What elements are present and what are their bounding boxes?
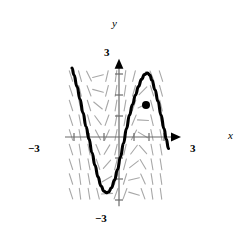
y-tick-label-pos3: 3 [104,47,110,58]
slope-field-segment [87,100,90,110]
slope-field-segment [106,85,109,96]
slope-field-segment [151,100,154,111]
slope-field-segment [69,188,72,198]
slope-field-segment [93,89,104,92]
slope-field-segment [151,130,153,141]
slope-field-segment [123,174,126,185]
slope-field-segment [151,159,153,170]
slope-field-segment [124,159,127,170]
x-axis-arrowhead [171,133,181,142]
slope-field-segment [133,71,136,82]
slope-field-segment [93,75,104,78]
slope-field-segment [79,71,82,82]
solution-curve-path [72,68,169,193]
slope-field-segment [131,145,138,154]
slope-field-segment [141,189,145,199]
slope-field-segment [88,174,90,185]
slope-field-segment [115,100,117,111]
slope-field-segment [160,85,163,96]
slope-field-segment [69,100,72,110]
slope-field-segment [79,115,81,126]
slope-field-segment [97,188,100,199]
slope-field-segment [69,130,72,140]
slope-field-segment [151,115,154,126]
slope-field-segment [123,189,127,199]
slope-field-segment [139,87,147,95]
slope-field-segment [69,115,72,125]
initial-condition-dot [142,101,150,109]
slope-field-segment [79,144,81,155]
slope-field-segment [87,86,91,96]
x-axis-label: x [228,130,233,141]
slope-field-segment [140,160,146,169]
slope-field-segment [115,71,117,82]
slope-field-segment [103,160,110,168]
slope-field-segment [151,144,153,155]
slope-field-segment [124,85,126,96]
slope-field-segment [124,71,126,82]
slope-field-segment [96,145,100,155]
slope-field-segment [130,161,139,168]
y-axis-label: y [112,18,117,29]
slope-field-segment [132,115,136,125]
slope-field-segment [160,174,162,185]
slope-field-segment [129,178,140,181]
slope-field-segment [151,188,153,199]
slope-field-segment [160,188,161,199]
slope-field-segment [88,159,90,170]
y-tick-label-neg3: −3 [95,213,107,224]
y-axis-arrowhead [115,59,124,69]
slope-field-segment [94,102,103,109]
slope-field-segment [88,115,91,126]
x-tick-label-neg3: −3 [28,143,40,154]
slope-field-segment [88,188,90,199]
slope-field-segment [69,144,72,154]
slope-field-segment [141,174,146,184]
slope-field-segment [87,71,92,81]
slope-field-segment [69,159,72,169]
slope-field-segment [69,86,72,96]
slope-field-segment [129,192,140,195]
x-tick-label-pos3: 3 [190,143,196,154]
slope-field-segment [151,174,153,185]
slope-field-figure: y x −3 3 3 −3 [0,0,242,240]
slope-field-segment [105,130,110,140]
slope-field-segment [160,130,162,141]
solution-curve [72,68,169,193]
slope-field-segment [160,144,162,155]
slope-field-segment [106,71,108,82]
slope-field-segment [79,159,81,170]
plot-canvas [0,0,242,240]
slope-field-segment [124,144,126,155]
marked-point [142,101,150,109]
slope-field-segment [124,100,126,111]
slope-field-segment [114,189,118,199]
slope-field-segment [79,188,80,199]
slope-field-segment [79,174,81,185]
slope-field-segment [138,120,149,121]
slope-field-segment [160,159,162,170]
slope-field-segment [159,71,162,81]
slope-field-segment [124,115,126,126]
slope-field-segment [95,116,102,125]
slope-field-segment [69,174,72,184]
slope-field-segment [104,145,110,154]
slope-field-segment [105,100,108,111]
slope-field-segment [115,144,117,155]
slope-field-segment [102,176,111,182]
slope-field-segment [139,145,146,153]
slope-field-segment [115,130,117,141]
slope-field-segment [79,129,81,140]
slope-field-segment [95,130,100,140]
slope-field-segment [105,115,109,125]
